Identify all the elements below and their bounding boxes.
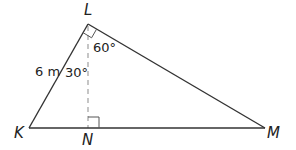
vertex-label-k: K: [14, 124, 25, 142]
side-label-kl: 6 m: [35, 64, 60, 79]
triangle-diagram: L K N M 6 m 30° 60°: [0, 0, 296, 150]
angle-label-kln: 30°: [65, 65, 88, 80]
angle-label-nlm: 60°: [93, 40, 116, 55]
vertex-label-n: N: [82, 131, 93, 149]
diagram-canvas: L K N M 6 m 30° 60°: [0, 0, 296, 150]
vertex-label-m: M: [267, 124, 280, 142]
vertex-label-l: L: [84, 1, 92, 19]
right-angle-mark-n: [88, 117, 99, 128]
